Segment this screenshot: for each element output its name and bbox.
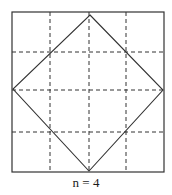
grid-dashed-lines	[12, 12, 164, 172]
outer-square	[12, 12, 164, 172]
figure-caption: n = 4	[0, 175, 172, 191]
inscribed-diamond	[13, 15, 163, 171]
diagram-canvas	[0, 0, 172, 195]
